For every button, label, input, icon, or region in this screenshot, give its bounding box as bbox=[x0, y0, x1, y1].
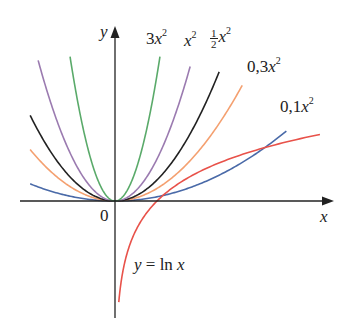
var: x bbox=[155, 29, 163, 48]
var: x bbox=[268, 57, 276, 76]
exp: 2 bbox=[226, 25, 231, 36]
var: x bbox=[301, 97, 309, 116]
y-axis-arrow-icon bbox=[111, 26, 120, 38]
coef: 0,1 bbox=[280, 97, 301, 116]
var: x bbox=[219, 27, 227, 46]
ln-y: y bbox=[134, 255, 142, 274]
curve-1-2-x-2 bbox=[30, 72, 219, 201]
curve-y-ln-x bbox=[119, 134, 320, 302]
coef: 0,3 bbox=[247, 57, 268, 76]
label-03x2: 0,3x2 bbox=[247, 58, 281, 75]
label-01x2: 0,1x2 bbox=[280, 98, 314, 115]
exp: 2 bbox=[162, 27, 167, 38]
x-axis-arrow-icon bbox=[322, 197, 334, 206]
exp: 2 bbox=[276, 55, 281, 66]
y-axis-label: y bbox=[100, 23, 108, 40]
den: 2 bbox=[210, 39, 218, 49]
label-half-x2: 12x2 bbox=[210, 28, 231, 49]
coef: 3 bbox=[146, 29, 155, 48]
label-ln-x: y = ln x bbox=[134, 256, 185, 273]
exp: 2 bbox=[309, 95, 314, 106]
x-axis-label: x bbox=[320, 208, 328, 225]
ln-x: x bbox=[177, 255, 185, 274]
chart-plot bbox=[0, 0, 349, 323]
fraction: 12 bbox=[210, 28, 218, 49]
var: x bbox=[184, 31, 192, 50]
label-3x2: 3x2 bbox=[146, 30, 167, 47]
origin-label: 0 bbox=[100, 207, 109, 224]
exp: 2 bbox=[192, 29, 197, 40]
curve-0-1x-2 bbox=[30, 131, 286, 201]
curve-0-3x-2 bbox=[30, 85, 242, 201]
ln-eq: = ln bbox=[142, 255, 178, 274]
label-x2: x2 bbox=[184, 32, 197, 49]
